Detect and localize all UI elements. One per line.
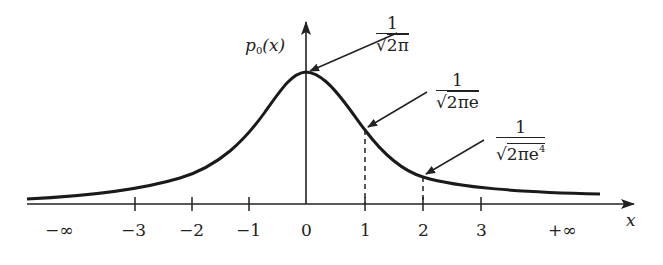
- tick-label-neg2: −2: [179, 222, 204, 239]
- arrow-x2: [426, 140, 484, 174]
- tick-label-2: 2: [418, 222, 429, 239]
- tick-label-neg1: −1: [236, 222, 261, 239]
- tick-label-0: 0: [301, 222, 312, 239]
- tick-label-1: 1: [360, 222, 371, 239]
- annotation-x2-value: 1 √2πe4: [496, 117, 545, 165]
- tick-label-neg-inf: −∞: [45, 222, 73, 239]
- annotation-x1-value: 1 √2πe: [436, 70, 479, 113]
- y-axis-label: p0(x): [245, 37, 285, 56]
- density-diagram: p0(x) x −∞ −3 −2 −1 0 1 2 3 +∞ 1 √2π 1 √…: [0, 0, 663, 265]
- x-axis-label: x: [626, 212, 636, 229]
- tick-label-3: 3: [476, 222, 487, 239]
- annotation-peak-value: 1 √2π: [376, 13, 409, 56]
- tick-label-pos-inf: +∞: [548, 222, 576, 239]
- arrow-x1: [368, 92, 427, 127]
- tick-label-neg3: −3: [121, 222, 146, 239]
